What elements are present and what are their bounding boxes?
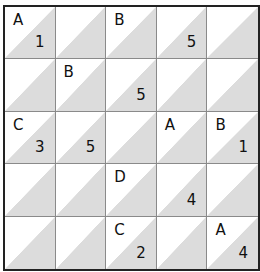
cell-letter: A (165, 118, 175, 133)
cell-number: 5 (136, 88, 146, 103)
grid-cell-r2-c5[interactable] (207, 59, 258, 111)
grid-cell-r4-c1[interactable] (5, 164, 56, 216)
grid-cell-r2-c2[interactable]: B (56, 59, 107, 111)
grid-cell-r5-c3[interactable]: C2 (106, 217, 157, 269)
grid-cell-r3-c5[interactable]: B1 (207, 112, 258, 164)
cell-letter: A (215, 223, 225, 238)
grid-cell-r1-c4[interactable]: 5 (157, 7, 208, 59)
grid-cell-r4-c2[interactable] (56, 164, 107, 216)
grid-cell-r3-c3[interactable] (106, 112, 157, 164)
grid-cell-r5-c1[interactable] (5, 217, 56, 269)
cell-letter: C (13, 118, 23, 133)
grid-cell-r2-c1[interactable] (5, 59, 56, 111)
cell-number: 5 (187, 35, 197, 50)
cell-letter: D (114, 170, 126, 185)
cell-number: 2 (136, 246, 146, 261)
cell-letter: C (114, 223, 124, 238)
cell-letter: B (114, 13, 124, 28)
grid-cell-r1-c2[interactable] (56, 7, 107, 59)
grid-cell-r1-c3[interactable]: B (106, 7, 157, 59)
cell-number: 1 (35, 35, 45, 50)
cell-letter: B (64, 65, 74, 80)
grid-cell-r5-c2[interactable] (56, 217, 107, 269)
grid-cell-r3-c1[interactable]: C3 (5, 112, 56, 164)
grid-cell-r5-c4[interactable] (157, 217, 208, 269)
grid-cell-r4-c4[interactable]: 4 (157, 164, 208, 216)
cell-number: 1 (238, 140, 248, 155)
grid-cell-r2-c3[interactable]: 5 (106, 59, 157, 111)
cell-number: 4 (187, 193, 197, 208)
grid-cell-r1-c5[interactable] (207, 7, 258, 59)
grid-cell-r4-c3[interactable]: D (106, 164, 157, 216)
grid-cell-r3-c4[interactable]: A (157, 112, 208, 164)
cell-letter: B (215, 118, 225, 133)
cell-letter: A (13, 13, 23, 28)
cell-number: 5 (86, 140, 96, 155)
grid-cell-r3-c2[interactable]: 5 (56, 112, 107, 164)
cell-number: 4 (238, 246, 248, 261)
grid-cell-r2-c4[interactable] (157, 59, 208, 111)
cell-number: 3 (35, 140, 45, 155)
grid-cell-r4-c5[interactable] (207, 164, 258, 216)
puzzle-grid: A1 B 5 B 5 C3 5 A B1 D 4 C2 A4 (3, 5, 260, 271)
grid-cell-r1-c1[interactable]: A1 (5, 7, 56, 59)
grid-cell-r5-c5[interactable]: A4 (207, 217, 258, 269)
